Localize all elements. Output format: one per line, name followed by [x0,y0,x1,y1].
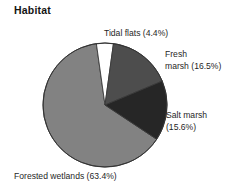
slice-label-fresh-marsh: Freshmarsh (16.5%) [165,49,237,72]
pie-slices [43,43,167,167]
slice-label-tidal-flats: Tidal flats (4.4%) [104,28,168,40]
slice-label-forested-wetlands: Forested wetlands (63.4%) [14,171,117,183]
slice-label-fresh-marsh-line-1: Fresh [165,49,187,59]
habitat-pie-chart-figure: Habitat Tidal flats (4.4%) Freshmarsh (1… [0,0,238,193]
slice-label-salt-marsh-line-2: (15.6%) [166,122,196,132]
slice-label-fresh-marsh-line-2: marsh (16.5%) [165,61,221,71]
slice-label-salt-marsh-line-1: Salt marsh [166,110,207,120]
slice-label-salt-marsh: Salt marsh(15.6%) [166,110,236,133]
